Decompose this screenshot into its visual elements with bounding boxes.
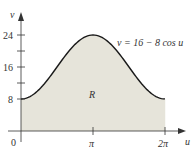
x-axis-label: u (185, 136, 190, 147)
y-tick-label-8: 8 (8, 94, 13, 105)
x-tick-label-2pi: 2π (158, 138, 169, 149)
region-label: R (88, 89, 95, 100)
x-tick-label-pi: π (89, 138, 95, 149)
chart: v u 24 16 8 0 π 2π v = 16 − 8 cos u R (0, 0, 194, 157)
x-tick-label-0: 0 (11, 137, 16, 148)
y-tick-label-16: 16 (3, 62, 13, 73)
function-label: v = 16 − 8 cos u (117, 37, 183, 48)
region-r-fill (21, 35, 165, 131)
x-axis-arrow-icon (178, 128, 186, 134)
y-axis-label: v (10, 9, 15, 20)
y-axis-arrow-icon (18, 12, 24, 21)
y-tick-label-24: 24 (3, 30, 13, 41)
